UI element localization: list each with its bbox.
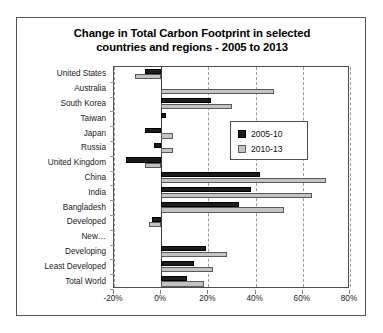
bar-2010-13 <box>135 74 161 79</box>
legend-label-2010-13: 2010-13 <box>251 144 283 154</box>
chart-row: China <box>114 171 348 186</box>
chart-row: Total World <box>114 274 348 289</box>
x-tick-mark-0 <box>160 290 161 294</box>
bar-2005-10 <box>161 246 206 251</box>
bar-2010-13 <box>161 148 173 153</box>
bar-2005-10 <box>152 217 161 222</box>
plot-area: United StatesAustraliaSouth KoreaTaiwanJ… <box>113 66 349 288</box>
legend-swatch-2010-13 <box>238 145 246 153</box>
bar-2005-10 <box>161 276 187 281</box>
category-label: China <box>0 173 106 182</box>
x-tick-label--20: -20% <box>88 294 138 303</box>
chart-row: India <box>114 185 348 200</box>
chart-figure: Change in Total Carbon Footprint in sele… <box>16 17 366 316</box>
bar-2005-10 <box>154 143 161 148</box>
legend-item-series-2: 2010-13 <box>238 141 307 156</box>
chart-row: Developed <box>114 215 348 230</box>
x-tick-mark-40 <box>255 290 256 294</box>
bar-2010-13 <box>161 178 326 183</box>
bar-2005-10 <box>145 128 162 133</box>
chart-body: United StatesAustraliaSouth KoreaTaiwanJ… <box>17 64 367 317</box>
category-label: Total World <box>0 277 106 286</box>
bar-2005-10 <box>126 157 161 162</box>
category-label: New… <box>0 232 106 241</box>
chart-legend: 2005-10 2010-13 <box>230 121 308 160</box>
category-label: South Korea <box>0 99 106 108</box>
bar-2010-13 <box>161 207 284 212</box>
chart-row: New… <box>114 230 348 245</box>
x-tick-mark--20 <box>113 290 114 294</box>
category-label: United States <box>0 69 106 78</box>
bar-2005-10 <box>161 202 239 207</box>
chart-row: Australia <box>114 82 348 97</box>
category-label: Bangladesh <box>0 203 106 212</box>
x-tick-label-40: 40% <box>230 294 280 303</box>
chart-row: Least Developed <box>114 259 348 274</box>
bar-2005-10 <box>161 172 260 177</box>
chart-title-line-2: countries and regions - 2005 to 2013 <box>27 40 357 54</box>
bar-2010-13 <box>161 104 232 109</box>
chart-title: Change in Total Carbon Footprint in sele… <box>27 26 357 54</box>
chart-title-line-1: Change in Total Carbon Footprint in sele… <box>27 26 357 40</box>
legend-item-series-1: 2005-10 <box>238 126 307 141</box>
x-axis: -20%0%20%40%60%80% <box>113 292 349 312</box>
bar-2005-10 <box>161 187 251 192</box>
bar-2010-13 <box>161 133 173 138</box>
x-tick-label-20: 20% <box>182 294 232 303</box>
category-label: Australia <box>0 84 106 93</box>
bar-2010-13 <box>161 281 203 286</box>
chart-row: Developing <box>114 245 348 260</box>
chart-row: United States <box>114 67 348 82</box>
category-label: Taiwan <box>0 114 106 123</box>
x-tick-mark-80 <box>349 290 350 294</box>
bar-2010-13 <box>149 222 161 227</box>
category-label: Least Developed <box>0 262 106 271</box>
category-label: United Kingdom <box>0 158 106 167</box>
gridline-80 <box>350 67 351 287</box>
bar-2005-10 <box>145 69 162 74</box>
x-tick-label-60: 60% <box>277 294 327 303</box>
x-tick-mark-20 <box>207 290 208 294</box>
x-tick-label-80: 80% <box>324 294 374 303</box>
bar-2010-13 <box>161 267 213 272</box>
bar-2010-13 <box>161 89 274 94</box>
x-tick-label-0: 0% <box>135 294 185 303</box>
chart-row: South Korea <box>114 97 348 112</box>
bar-2005-10 <box>161 261 194 266</box>
x-tick-mark-60 <box>302 290 303 294</box>
bar-2010-13 <box>161 193 312 198</box>
category-label: Russia <box>0 143 106 152</box>
category-label: Japan <box>0 129 106 138</box>
category-label: Developed <box>0 217 106 226</box>
chart-row: Bangladesh <box>114 200 348 215</box>
bar-2010-13 <box>161 252 227 257</box>
legend-label-2005-10: 2005-10 <box>251 129 283 139</box>
category-label: India <box>0 188 106 197</box>
bar-2005-10 <box>161 113 166 118</box>
bar-2005-10 <box>161 98 211 103</box>
bar-2010-13 <box>145 163 162 168</box>
category-label: Developing <box>0 247 106 256</box>
legend-swatch-2005-10 <box>238 130 246 138</box>
